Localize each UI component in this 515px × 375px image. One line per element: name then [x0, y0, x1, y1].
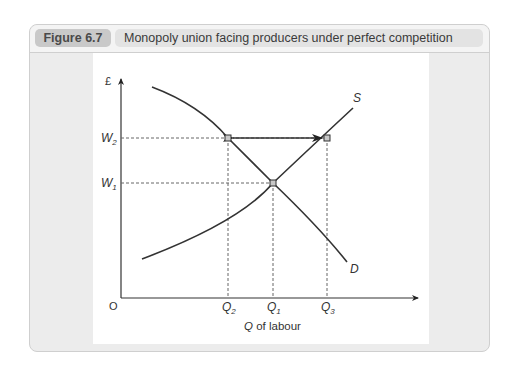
y-axis-label: £ — [105, 75, 111, 87]
q1-label: Q1 — [267, 300, 281, 316]
demand-label: D — [350, 262, 359, 276]
chart: £ O W2 W1 Q2 Q1 Q3 Q of labour S D — [0, 0, 515, 375]
x-axis-label: Q of labour — [244, 320, 301, 332]
supply-label: S — [353, 91, 361, 105]
w1-label: W1 — [101, 176, 117, 192]
demand-curve — [152, 87, 347, 262]
w2-label: W2 — [101, 131, 117, 147]
q3-label: Q3 — [321, 300, 335, 316]
q2-label: Q2 — [222, 300, 236, 316]
origin-label: O — [109, 300, 118, 312]
